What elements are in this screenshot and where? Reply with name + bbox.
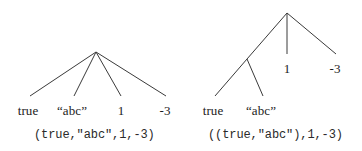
leaf-label-minus-three: -3	[329, 62, 340, 75]
tree-edge-2	[96, 52, 121, 96]
tree-edge-inner-abc	[247, 59, 263, 96]
tree-edge-inner-true	[215, 59, 247, 96]
tree-edge-0	[30, 52, 96, 96]
tree-edge-1	[74, 52, 96, 96]
flat-tuple-caption: (true,"abc",1,-3)	[34, 128, 155, 142]
leaf-label-true: true	[18, 104, 39, 117]
leaf-label-one: 1	[118, 104, 125, 117]
leaf-label-abc: “abc”	[57, 104, 87, 117]
figure-canvas: true “abc” 1 -3 (true,"abc",1,-3) true “…	[0, 0, 362, 151]
leaf-label-minus-three: -3	[159, 104, 170, 117]
tree-edge-root-minus-three	[287, 13, 336, 54]
nested-tuple-figure: true “abc” 1 -3 ((true,"abc"),1,-3)	[181, 0, 362, 151]
tree-edge-root-inner	[247, 13, 287, 59]
nested-tuple-caption: ((true,"abc"),1,-3)	[208, 128, 343, 142]
leaf-label-true: true	[203, 104, 224, 117]
leaf-label-abc: “abc”	[246, 104, 276, 117]
leaf-label-one: 1	[284, 62, 291, 75]
tree-edge-3	[96, 52, 166, 96]
flat-tuple-figure: true “abc” 1 -3 (true,"abc",1,-3)	[0, 0, 181, 151]
